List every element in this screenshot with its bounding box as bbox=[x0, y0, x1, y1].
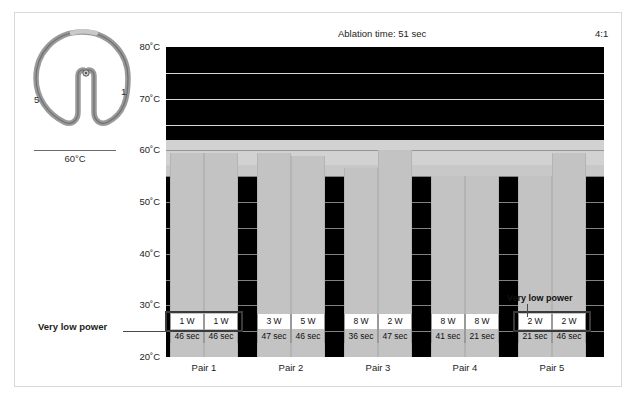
gridline bbox=[166, 73, 604, 74]
callout-very-low-power-right: Very low power bbox=[507, 293, 573, 303]
catheter-electrode-label-5: 5 bbox=[34, 94, 39, 105]
pair-label: Pair 4 bbox=[431, 362, 499, 373]
scale-legend-rule bbox=[34, 150, 116, 151]
callout-right-leader-line bbox=[527, 304, 528, 317]
y-axis: 80˚C70˚C60˚C50˚C40˚C30˚C20˚C bbox=[112, 0, 160, 403]
pair-label: Pair 1 bbox=[170, 362, 238, 373]
time-cell: 21 sec bbox=[518, 329, 552, 343]
ablation-time-label: Ablation time: 51 sec bbox=[338, 28, 426, 39]
power-cell: 8 W bbox=[465, 314, 499, 329]
time-cell: 41 sec bbox=[431, 329, 465, 343]
scale-legend-label: 60°C bbox=[34, 153, 116, 164]
callout-very-low-power-left: Very low power bbox=[38, 321, 107, 332]
gridline bbox=[166, 99, 604, 100]
ratio-label: 4:1 bbox=[595, 28, 608, 39]
power-time-table: 1 W46 sec1 W46 sec3 W47 sec5 W46 sec8 W3… bbox=[166, 314, 604, 357]
pair-label: Pair 2 bbox=[257, 362, 325, 373]
y-axis-tick: 60˚C bbox=[114, 144, 160, 155]
y-axis-tick: 30˚C bbox=[114, 299, 160, 310]
power-cell: 2 W bbox=[378, 314, 412, 329]
power-cell: 1 W bbox=[204, 314, 238, 329]
y-axis-tick: 40˚C bbox=[114, 248, 160, 259]
y-axis-tick: 20˚C bbox=[114, 351, 160, 362]
time-cell: 46 sec bbox=[552, 329, 586, 343]
time-cell: 21 sec bbox=[465, 329, 499, 343]
time-cell: 47 sec bbox=[378, 329, 412, 343]
power-cell: 3 W bbox=[257, 314, 291, 329]
power-cell: 2 W bbox=[552, 314, 586, 329]
y-axis-tick: 80˚C bbox=[114, 41, 160, 52]
time-cell: 46 sec bbox=[170, 329, 204, 343]
ablation-chart-screen: 1 5 60°C Ablation time: 51 sec 4:1 80˚C7… bbox=[0, 0, 637, 403]
time-cell: 46 sec bbox=[291, 329, 325, 343]
power-cell: 8 W bbox=[344, 314, 378, 329]
power-cell: 8 W bbox=[431, 314, 465, 329]
power-cell: 5 W bbox=[291, 314, 325, 329]
hot-band bbox=[166, 47, 604, 140]
power-cell: 1 W bbox=[170, 314, 204, 329]
gridline bbox=[166, 125, 604, 126]
pair-label: Pair 3 bbox=[344, 362, 412, 373]
time-cell: 36 sec bbox=[344, 329, 378, 343]
callout-left-leader-line bbox=[123, 331, 173, 332]
temperature-plot bbox=[166, 47, 604, 357]
pair-label: Pair 5 bbox=[518, 362, 586, 373]
power-cell: 2 W bbox=[518, 314, 552, 329]
y-axis-tick: 50˚C bbox=[114, 196, 160, 207]
y-axis-tick: 70˚C bbox=[114, 93, 160, 104]
time-cell: 46 sec bbox=[204, 329, 238, 343]
time-cell: 47 sec bbox=[257, 329, 291, 343]
scale-legend: 60°C bbox=[34, 150, 116, 164]
